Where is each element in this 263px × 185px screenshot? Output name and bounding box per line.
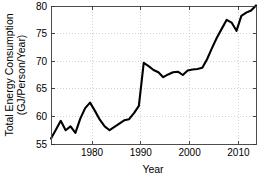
axis-frame xyxy=(51,6,256,144)
y-tick-label: 75 xyxy=(36,28,48,39)
energy-consumption-chart: 55 60 65 70 75 80 1980 1990 2000 2010 Ye… xyxy=(0,0,263,185)
x-tick-labels: 1980 1990 2000 2010 xyxy=(81,147,250,158)
x-axis-title: Year xyxy=(142,163,164,175)
y-axis-title: Total Energy Consumption (GJ/Person/Year… xyxy=(3,13,27,136)
y-axis-title-line1: Total Energy Consumption xyxy=(3,13,15,136)
x-tick-label: 1990 xyxy=(130,147,153,158)
chart-canvas: 55 60 65 70 75 80 1980 1990 2000 2010 Ye… xyxy=(0,0,263,185)
y-tick-marks xyxy=(51,6,256,144)
y-tick-labels: 55 60 65 70 75 80 xyxy=(36,1,48,150)
y-axis-title-line2: (GJ/Person/Year) xyxy=(15,35,27,116)
x-tick-label: 2000 xyxy=(178,147,201,158)
y-tick-label: 80 xyxy=(36,1,48,12)
y-tick-label: 60 xyxy=(36,111,48,122)
x-tick-label: 2010 xyxy=(227,147,250,158)
x-tick-label: 1980 xyxy=(81,147,104,158)
y-tick-label: 65 xyxy=(36,83,48,94)
data-series-line xyxy=(51,5,256,138)
y-tick-label: 70 xyxy=(36,56,48,67)
horizontal-gridlines xyxy=(51,6,256,144)
y-tick-label: 55 xyxy=(36,139,48,150)
